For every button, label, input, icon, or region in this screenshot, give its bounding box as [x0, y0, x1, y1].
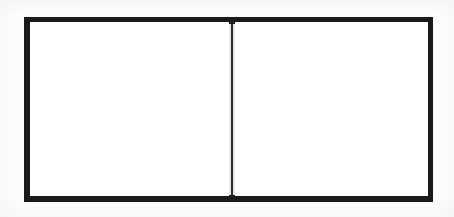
divider-joint-top [229, 20, 235, 24]
outer-rectangle [24, 17, 433, 202]
divider-joint-bottom [229, 195, 235, 199]
panel-right[interactable] [231, 22, 428, 196]
panel-group [30, 22, 428, 196]
vertical-divider-line [231, 21, 233, 197]
panel-left[interactable] [30, 22, 231, 196]
figure-canvas [0, 0, 454, 217]
